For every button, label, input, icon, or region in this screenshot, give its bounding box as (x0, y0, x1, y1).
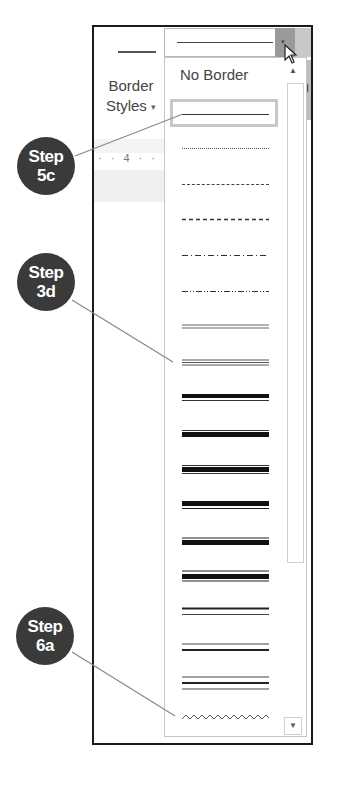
callout-label-line2: 6a (36, 636, 54, 655)
mouse-pointer-icon (284, 44, 300, 66)
ruler-band (94, 139, 164, 153)
border-option-thick-thin-small[interactable] (170, 385, 278, 413)
border-option-small-dash[interactable] (170, 171, 278, 199)
line-preview (182, 290, 269, 293)
border-option-thin-thick-large[interactable] (170, 634, 278, 662)
border-option-single-line[interactable] (170, 99, 278, 127)
line-preview (182, 254, 269, 257)
selected-style-preview (177, 42, 273, 43)
line-preview (182, 324, 269, 330)
callout-label-line1: Step (28, 617, 63, 636)
no-border-option[interactable]: No Border (180, 66, 248, 83)
callout-label-line2: 5c (37, 166, 55, 185)
callout-step-5c: Step 5c (17, 137, 75, 195)
scroll-up-arrow-icon[interactable]: ▲ (289, 66, 297, 75)
line-preview (182, 218, 269, 221)
pen-weight-preview (118, 51, 156, 53)
line-preview (182, 148, 269, 149)
line-preview (182, 184, 269, 185)
line-preview (182, 394, 269, 402)
border-option-thick-thin-large[interactable] (170, 598, 278, 626)
border-option-triple[interactable] (170, 350, 278, 378)
border-option-dash-dot[interactable] (170, 243, 278, 271)
line-preview (182, 570, 269, 583)
border-option-wave[interactable] (170, 705, 278, 733)
border-option-double[interactable] (170, 314, 278, 342)
line-preview (182, 713, 269, 721)
line-preview (182, 643, 269, 652)
chevron-down-icon: ▾ (151, 102, 156, 112)
scroll-down-arrow-icon[interactable]: ▼ (284, 717, 302, 735)
line-preview (182, 359, 269, 366)
border-option-thin-thick-thin-small[interactable] (170, 457, 278, 485)
line-preview (182, 114, 269, 115)
border-option-thin-thick-thin-medium[interactable] (170, 563, 278, 591)
callout-label-line1: Step (29, 147, 64, 166)
border-styles-label-line1: Border (96, 76, 166, 96)
callout-label-line1: Step (29, 263, 64, 282)
border-option-dash-dot-dot[interactable] (170, 279, 278, 307)
line-preview (182, 430, 269, 438)
callout-label-line2: 3d (37, 282, 56, 301)
border-option-thin-thick-thin-large[interactable] (170, 669, 278, 697)
line-preview (182, 501, 269, 510)
border-styles-button[interactable]: Border Styles ▾ (96, 76, 166, 117)
line-preview (182, 676, 269, 691)
border-styles-label-line2: Styles (106, 97, 147, 114)
line-preview (182, 537, 269, 546)
border-option-thin-thick-small[interactable] (170, 421, 278, 449)
border-option-thin-thick-medium[interactable] (170, 528, 278, 556)
line-preview (182, 465, 269, 475)
border-option-dotted[interactable] (170, 136, 278, 164)
ruler: · · 4 · · (94, 152, 164, 170)
callout-step-6a: Step 6a (16, 607, 74, 665)
border-option-large-dash[interactable] (170, 207, 278, 235)
scrollbar-thumb[interactable] (287, 83, 304, 563)
border-option-thick-thin-medium[interactable] (170, 492, 278, 520)
line-preview (182, 607, 269, 616)
callout-step-3d: Step 3d (17, 253, 75, 311)
ruler-lower-band (94, 170, 164, 202)
